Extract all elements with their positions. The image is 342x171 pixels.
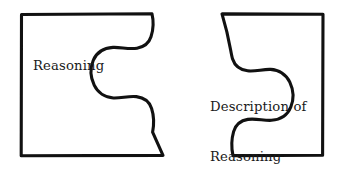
right-piece-label: Description of Reasoning	[210, 65, 307, 171]
left-piece-label: Reasoning	[33, 24, 104, 108]
left-piece-label-text: Reasoning	[33, 58, 104, 75]
right-piece-label-line-2: Reasoning	[210, 149, 307, 166]
puzzle-diagram: Reasoning Description of Reasoning	[0, 0, 342, 171]
right-piece-label-line-1: Description of	[210, 99, 307, 116]
